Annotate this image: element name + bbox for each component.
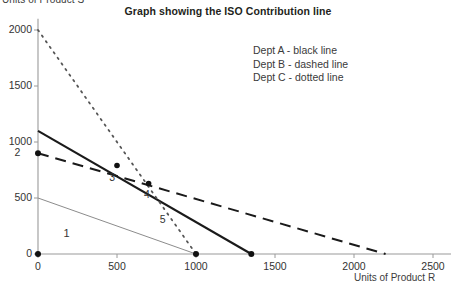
series-line-dept-c <box>38 30 196 254</box>
data-point-marker <box>248 251 254 257</box>
x-tick-label: 500 <box>94 260 140 272</box>
x-tick-label: 1500 <box>252 260 298 272</box>
series-line-iso-contribution-line <box>38 198 196 254</box>
y-tick-label: 500 <box>0 191 32 203</box>
x-tick-label: 2000 <box>331 260 377 272</box>
series-line-dept-b <box>38 153 386 254</box>
intersection-marker-3 <box>114 163 120 169</box>
point-label-2: 2 <box>14 146 20 158</box>
data-point-markers <box>35 150 254 257</box>
point-label-3: 3 <box>109 171 115 183</box>
x-tick-label: 2500 <box>410 260 456 272</box>
chart-screenshot: Units of Product S Graph showing the ISO… <box>0 0 456 289</box>
intersection-marker-4 <box>146 181 152 187</box>
axes <box>34 19 451 258</box>
legend-item-dept-b: Dept B - dashed line <box>253 58 348 72</box>
y-tick-label: 1500 <box>0 79 32 91</box>
point-label-5: 5 <box>160 213 166 225</box>
legend-item-dept-c: Dept C - dotted line <box>253 71 348 85</box>
point-label-4: 4 <box>144 188 150 200</box>
y-tick-label: 1000 <box>0 135 32 147</box>
data-point-marker <box>35 251 41 257</box>
data-point-marker <box>35 150 41 156</box>
legend-item-dept-a: Dept A - black line <box>253 44 348 58</box>
x-tick-label: 1000 <box>173 260 219 272</box>
plot-area <box>0 0 456 289</box>
y-tick-label: 2000 <box>0 23 32 35</box>
y-tick-label: 0 <box>0 247 32 259</box>
x-axis-label: Units of Product R <box>354 272 435 283</box>
data-point-marker <box>193 251 199 257</box>
legend: Dept A - black line Dept B - dashed line… <box>253 44 348 85</box>
x-tick-label: 0 <box>15 260 61 272</box>
point-label-1: 1 <box>63 227 69 239</box>
